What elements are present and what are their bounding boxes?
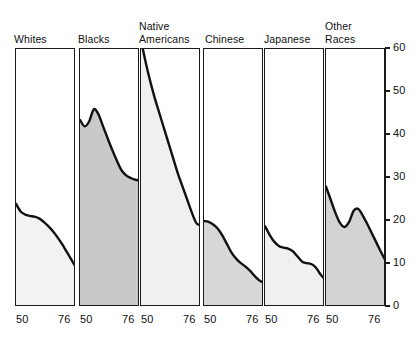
x-tick-label-end: 76: [307, 313, 320, 325]
area-fill: [326, 187, 385, 306]
x-tick-label-start: 50: [80, 313, 93, 325]
small-multiples-chart: Whites Blacks Native Americans Chinese J…: [0, 0, 417, 343]
panel-title-japanese: Japanese: [264, 33, 310, 46]
x-tick-label-end: 76: [58, 313, 71, 325]
panel-plot-native-americans: [140, 48, 200, 306]
panel-plot-blacks: [79, 48, 139, 306]
x-tick-label-end: 76: [122, 313, 135, 325]
y-tick-mark: [385, 133, 390, 134]
y-tick-label: 10: [393, 256, 406, 268]
panel-plot-other-races: [325, 48, 385, 306]
panel-title-chinese: Chinese: [205, 33, 244, 46]
panel-plot-japanese: [264, 48, 324, 306]
y-tick-label: 30: [393, 170, 406, 182]
y-tick-label: 50: [393, 84, 406, 96]
panel-title-blacks: Blacks: [78, 33, 110, 46]
area-curve-japanese: [265, 49, 324, 306]
y-tick-mark: [385, 219, 390, 220]
x-tick-label-start: 50: [16, 313, 29, 325]
panel-plot-chinese: [203, 48, 263, 306]
y-tick-mark: [385, 262, 390, 263]
y-tick-label: 60: [393, 41, 406, 53]
y-tick-mark: [385, 90, 390, 91]
x-tick-label-end: 76: [183, 313, 196, 325]
y-tick-label: 20: [393, 213, 406, 225]
panel-title-other-races: Other Races: [325, 20, 355, 45]
y-tick-mark: [385, 176, 390, 177]
x-tick-label-start: 50: [265, 313, 278, 325]
area-fill: [80, 109, 139, 306]
y-tick-label: 40: [393, 127, 406, 139]
x-tick-label-end: 76: [246, 313, 259, 325]
panel-title-whites: Whites: [14, 33, 47, 46]
area-curve-blacks: [80, 49, 139, 306]
x-tick-label-end: 76: [368, 313, 381, 325]
area-fill: [16, 204, 75, 306]
y-tick-mark: [385, 47, 390, 48]
area-curve-other-races: [326, 49, 385, 306]
area-curve-whites: [16, 49, 75, 306]
x-tick-label-start: 50: [326, 313, 339, 325]
panel-title-native-americans: Native Americans: [139, 20, 190, 45]
y-tick-label: 0: [393, 299, 399, 311]
area-fill: [204, 221, 263, 306]
area-curve-chinese: [204, 49, 263, 306]
x-tick-label-start: 50: [204, 313, 217, 325]
x-tick-label-start: 50: [141, 313, 154, 325]
area-fill: [141, 49, 200, 306]
panel-plot-whites: [15, 48, 75, 306]
y-tick-mark: [385, 305, 390, 306]
area-curve-native-americans: [141, 49, 200, 306]
